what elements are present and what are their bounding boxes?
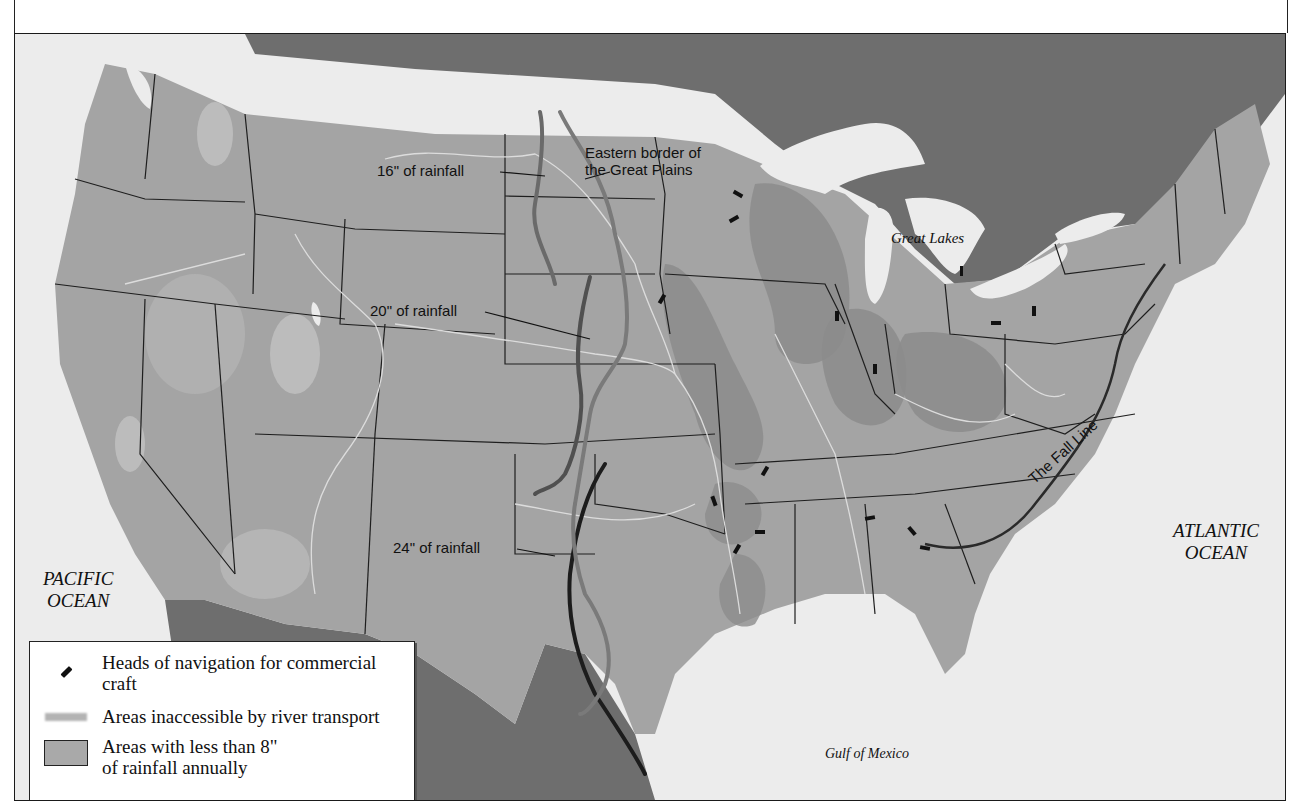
label-rain-20: 20" of rainfall (370, 302, 457, 319)
heads-of-navigation-icon (60, 666, 72, 678)
legend-item-dry-area: Areas with less than 8" of rainfall annu… (30, 736, 414, 778)
label-pacific-ocean: PACIFIC OCEAN (43, 568, 113, 612)
label-great-plains-line2: the Great Plains (585, 161, 701, 178)
map-frame: Eastern border of the Great Plains 16" o… (14, 33, 1286, 801)
dry-area-swatch-icon (44, 740, 88, 766)
title-strip (14, 0, 1288, 33)
legend-item-heads-of-navigation: Heads of navigation for commercial craft (30, 652, 414, 694)
label-great-plains-border: Eastern border of the Great Plains (585, 144, 701, 178)
label-great-plains-line1: Eastern border of (585, 144, 701, 161)
atlantic-line2: OCEAN (1173, 542, 1259, 564)
dry-area (270, 314, 320, 394)
dry-area (220, 529, 310, 599)
atlantic-line1: ATLANTIC (1173, 520, 1259, 542)
legend-item-inaccessible: Areas inaccessible by river transport (30, 706, 414, 727)
label-atlantic-ocean: ATLANTIC OCEAN (1173, 520, 1259, 564)
dry-area (145, 274, 245, 394)
label-rain-16: 16" of rainfall (377, 162, 464, 179)
label-great-lakes: Great Lakes (891, 230, 964, 247)
legend-label: Areas with less than 8" of rainfall annu… (102, 736, 282, 778)
pacific-line1: PACIFIC (43, 568, 113, 590)
map-legend: Heads of navigation for commercial craft… (29, 641, 415, 801)
legend-label: Areas inaccessible by river transport (102, 706, 402, 727)
label-gulf-of-mexico: Gulf of Mexico (825, 746, 909, 762)
label-rain-24: 24" of rainfall (393, 539, 480, 556)
dry-area (197, 102, 233, 166)
legend-label: Heads of navigation for commercial craft (102, 652, 402, 694)
pacific-line2: OCEAN (43, 590, 113, 612)
inaccessible-area-swatch-icon (45, 713, 87, 721)
